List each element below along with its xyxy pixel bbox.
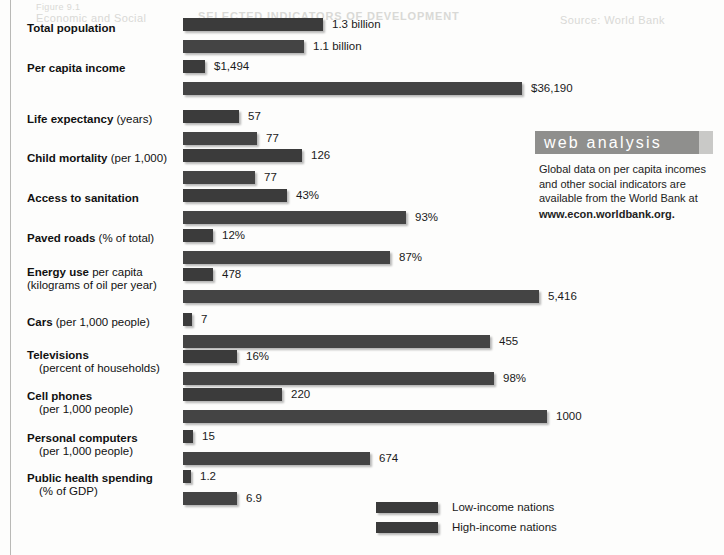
bar-value-label: 7 xyxy=(201,313,207,326)
category-label: Child mortality (per 1,000) xyxy=(27,152,183,165)
category-label: Life expectancy (years) xyxy=(27,113,183,126)
category-label: Energy use per capita(kilograms of oil p… xyxy=(27,266,183,292)
bar-high-income xyxy=(183,251,390,264)
bar-value-label: 478 xyxy=(222,268,241,281)
bar-high-income xyxy=(183,290,539,303)
web-analysis-box: web analysis Global data on per capita i… xyxy=(535,131,713,221)
bar-high-income xyxy=(183,40,304,53)
bar-high-income xyxy=(183,82,522,95)
bar-row: 455 xyxy=(183,335,703,348)
bar-value-label: 1.2 xyxy=(200,470,216,483)
bar-value-label: 220 xyxy=(291,388,310,401)
category-label: Cell phones(per 1,000 people) xyxy=(27,390,183,416)
bar-row: $36,190 xyxy=(183,82,703,95)
category-label-qualifier: (% of total) xyxy=(95,232,154,244)
bar-value-label: 1.1 billion xyxy=(313,40,362,53)
bar-row: 87% xyxy=(183,251,703,264)
category-label-subline: (kilograms of oil per year) xyxy=(27,279,183,292)
category-label-main: Child mortality xyxy=(27,152,108,164)
bar-low-income xyxy=(183,110,239,123)
category-label-main: Cars xyxy=(27,316,53,328)
bar-low-income xyxy=(183,149,302,162)
category-label-main: Energy use xyxy=(27,266,89,278)
category-label: Televisions(percent of households) xyxy=(27,349,183,375)
bar-high-income xyxy=(183,372,494,385)
bar-row: 220 xyxy=(183,388,703,401)
bar-low-income xyxy=(183,430,193,443)
bar-high-income xyxy=(183,211,406,224)
bar-low-income xyxy=(183,268,213,281)
bar-low-income xyxy=(183,470,191,483)
bar-high-income xyxy=(183,132,257,145)
bar-value-label: 674 xyxy=(379,452,398,465)
category-label-main: Paved roads xyxy=(27,232,95,244)
bar-value-label: 12% xyxy=(222,229,245,242)
bar-value-label: 5,416 xyxy=(548,290,577,303)
category-label-main: Personal computers xyxy=(27,432,138,444)
bar-high-income xyxy=(183,171,255,184)
bar-low-income xyxy=(183,60,205,73)
category-label-main: Televisions xyxy=(27,349,89,361)
category-label: Cars (per 1,000 people) xyxy=(27,316,183,329)
bar-row: 1.1 billion xyxy=(183,40,703,53)
bar-value-label: 98% xyxy=(503,372,526,385)
web-analysis-header-cap xyxy=(699,131,713,154)
bar-row: 1000 xyxy=(183,410,703,423)
bar-value-label: 77 xyxy=(266,132,279,145)
bar-row: 12% xyxy=(183,229,703,242)
bar-low-income xyxy=(183,388,282,401)
category-label-subline: (per 1,000 people) xyxy=(27,445,183,458)
bar-row: 16% xyxy=(183,350,703,363)
bar-value-label: 43% xyxy=(296,189,319,202)
bar-low-income xyxy=(183,189,287,202)
figure-page: Figure 9.1 Economic and Social SELECTED … xyxy=(0,0,724,555)
bar-high-income xyxy=(183,335,490,348)
bar-value-label: 16% xyxy=(246,350,269,363)
bar-low-income xyxy=(183,229,213,242)
bar-row: 5,416 xyxy=(183,290,703,303)
bar-row: 57 xyxy=(183,110,703,123)
horizontal-bar-chart: Total population1.3 billion1.1 billionPe… xyxy=(0,0,724,490)
category-label: Access to sanitation xyxy=(27,192,183,205)
bar-row: 6.9 xyxy=(183,492,703,505)
bar-row: 478 xyxy=(183,268,703,281)
web-analysis-header: web analysis xyxy=(535,131,713,154)
bar-high-income xyxy=(183,410,547,423)
category-label-qualifier: (years) xyxy=(113,113,152,125)
category-label: Total population xyxy=(27,22,183,35)
bar-low-income xyxy=(183,18,323,31)
bar-row: 1.3 billion xyxy=(183,18,703,31)
bar-high-income xyxy=(183,492,237,505)
bar-low-income xyxy=(183,313,192,326)
category-label: Public health spending(% of GDP) xyxy=(27,472,183,498)
bar-low-income xyxy=(183,350,237,363)
category-label: Paved roads (% of total) xyxy=(27,232,183,245)
bar-value-label: 15 xyxy=(202,430,215,443)
bar-row: 674 xyxy=(183,452,703,465)
category-label-qualifier: per capita xyxy=(89,266,143,278)
category-label-main: Total population xyxy=(27,22,116,34)
web-analysis-url[interactable]: www.econ.worldbank.org. xyxy=(539,207,711,222)
bar-value-label: $1,494 xyxy=(214,60,249,73)
legend-swatch xyxy=(376,522,438,533)
bar-value-label: 6.9 xyxy=(246,492,262,505)
category-label: Per capita income xyxy=(27,62,183,75)
category-label: Personal computers(per 1,000 people) xyxy=(27,432,183,458)
legend-label: Low-income nations xyxy=(452,500,554,515)
bar-value-label: 93% xyxy=(415,211,438,224)
category-label-main: Cell phones xyxy=(27,390,92,402)
bar-high-income xyxy=(183,452,370,465)
legend-label: High-income nations xyxy=(452,520,557,535)
bar-value-label: 1000 xyxy=(556,410,582,423)
category-label-qualifier: (per 1,000) xyxy=(108,152,167,164)
web-analysis-text: Global data on per capita incomes and ot… xyxy=(539,163,706,204)
category-label-subline: (per 1,000 people) xyxy=(27,403,183,416)
category-label-qualifier: (per 1,000 people) xyxy=(53,316,150,328)
bar-row: 1.2 xyxy=(183,470,703,483)
bar-row: 7 xyxy=(183,313,703,326)
category-label-main: Life expectancy xyxy=(27,113,113,125)
bar-row: $1,494 xyxy=(183,60,703,73)
category-label-main: Access to sanitation xyxy=(27,192,139,204)
bar-row: 98% xyxy=(183,372,703,385)
bar-row: 15 xyxy=(183,430,703,443)
